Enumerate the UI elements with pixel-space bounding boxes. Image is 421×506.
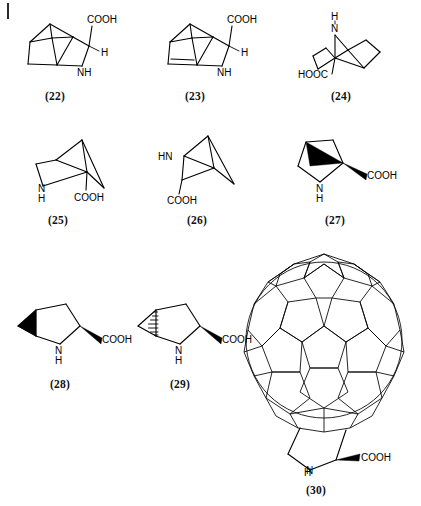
atom-label-h-27: H	[316, 193, 323, 204]
compound-label-29: (29)	[170, 378, 190, 390]
atom-label-nh-22: NH	[77, 67, 91, 78]
atom-label-h-29: H	[175, 355, 182, 366]
compound-label-30: (30)	[306, 484, 326, 496]
structure-26: HN COOH	[146, 128, 266, 206]
atom-label-h-23: H	[241, 47, 248, 58]
atom-label-cooh-23: COOH	[227, 14, 257, 25]
atom-label-h-22: H	[101, 47, 108, 58]
atom-label-cooh-26: COOH	[167, 195, 197, 206]
structure-25: N H COOH	[22, 130, 142, 204]
structure-30-nh-hydrogen: H	[303, 466, 319, 482]
structure-22: COOH H NH	[16, 10, 136, 82]
compound-label-25: (25)	[48, 214, 68, 226]
pyrrolidine-ring-30	[288, 428, 360, 470]
structure-27: N H COOH	[288, 130, 413, 204]
cooh-wedge-27	[343, 163, 367, 180]
atom-label-h-28: H	[55, 355, 62, 366]
atom-label-h-25: H	[38, 193, 45, 204]
structure-24: H N HOOC	[296, 8, 416, 86]
compound-label-23: (23)	[185, 90, 205, 102]
atom-label-h-24: H	[331, 11, 338, 22]
atom-label-cooh-27: COOH	[367, 170, 397, 181]
atom-label-cooh-25: COOH	[74, 192, 104, 203]
atom-label-cooh-28: COOH	[102, 334, 132, 345]
atom-label-cooh-30: COOH	[361, 452, 391, 463]
atom-label-n-24: N	[331, 23, 338, 34]
structure-23: COOH H NH	[156, 10, 276, 82]
structure-28: N H COOH	[14, 292, 139, 366]
atom-label-hn-26: HN	[158, 151, 172, 162]
compound-label-22: (22)	[45, 90, 65, 102]
cooh-wedge-30	[336, 454, 360, 461]
compound-label-27: (27)	[325, 214, 345, 226]
atom-label-hooc-24: HOOC	[298, 69, 328, 80]
cooh-wedge-28	[80, 326, 102, 344]
atom-label-h-30: H	[304, 467, 311, 478]
figure-plate: COOH H NH (22) COOH H NH (	[0, 0, 421, 506]
page-edge-tick	[7, 3, 9, 19]
bold-wedge-27	[306, 142, 343, 166]
atom-label-nh-23: NH	[217, 67, 231, 78]
atom-label-cooh-22: COOH	[87, 14, 117, 25]
fullerene-cage	[244, 254, 404, 432]
cooh-wedge-29	[200, 326, 222, 344]
compound-label-24: (24)	[331, 90, 351, 102]
compound-label-26: (26)	[187, 214, 207, 226]
compound-label-28: (28)	[50, 378, 70, 390]
structure-30: N COOH	[228, 248, 420, 473]
